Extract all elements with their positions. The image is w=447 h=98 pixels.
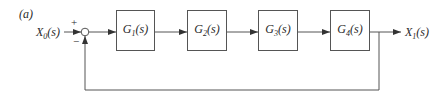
block-g1: G1(s)	[116, 10, 155, 51]
block-diagram: (a) X0(s) + − G1(s) G2(s) G3(s) G4(s) X1…	[0, 0, 447, 98]
plus-sign: +	[71, 17, 77, 28]
panel-label: (a)	[19, 8, 33, 20]
input-label: X0(s)	[36, 26, 60, 41]
block-g4: G4(s)	[330, 10, 370, 51]
block-g2: G2(s)	[187, 10, 227, 51]
minus-sign: −	[73, 36, 79, 47]
output-label: X1(s)	[405, 26, 429, 41]
block-g3: G3(s)	[258, 10, 298, 51]
summing-junction-icon	[81, 28, 89, 36]
